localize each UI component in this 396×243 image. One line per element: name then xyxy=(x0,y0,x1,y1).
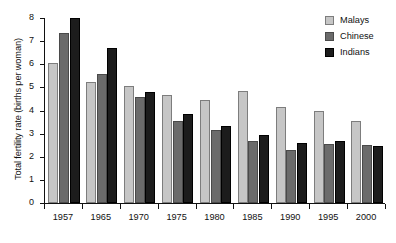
bar-chinese-1970 xyxy=(135,97,145,203)
x-tick-1995 xyxy=(347,204,348,209)
y-tick-label-1: 1 xyxy=(18,174,34,185)
y-tick-5: 5 xyxy=(40,87,44,88)
bar-indians-1965 xyxy=(107,48,117,203)
legend-swatch-malays-icon xyxy=(325,16,334,25)
y-tick-3: 3 xyxy=(40,134,44,135)
legend-label-chinese: Chinese xyxy=(340,31,374,41)
x-tick-1985 xyxy=(271,204,272,209)
bar-indians-2000 xyxy=(373,146,383,203)
y-tick-label-6: 6 xyxy=(18,58,34,69)
x-tick-origin xyxy=(44,204,45,209)
fertility-rate-bar-chart: Total fertility rate (births per woman) … xyxy=(0,0,396,243)
y-tick-label-2: 2 xyxy=(18,151,34,162)
bar-indians-1975 xyxy=(183,114,193,203)
legend-swatch-indians-icon xyxy=(325,48,334,57)
bar-malays-1957 xyxy=(48,63,58,203)
y-tick-6: 6 xyxy=(40,64,44,65)
y-tick-4: 4 xyxy=(40,111,44,112)
bar-indians-1995 xyxy=(335,141,345,203)
bar-chinese-1990 xyxy=(286,150,296,203)
bar-chinese-1965 xyxy=(97,74,107,204)
y-tick-label-5: 5 xyxy=(18,81,34,92)
x-axis-line xyxy=(44,203,385,204)
legend-item-malays: Malays xyxy=(325,12,395,28)
bar-malays-1965 xyxy=(86,82,96,203)
bar-chinese-1975 xyxy=(173,121,183,203)
x-tick-1990 xyxy=(309,204,310,209)
bar-indians-1957 xyxy=(70,18,80,203)
bar-indians-1970 xyxy=(145,92,155,203)
chart-legend: Malays Chinese Indians xyxy=(325,12,395,60)
bar-malays-1995 xyxy=(314,111,324,204)
bar-chinese-2000 xyxy=(362,145,372,203)
x-tick-1980 xyxy=(233,204,234,209)
y-tick-label-7: 7 xyxy=(18,35,34,46)
x-tick-1970 xyxy=(158,204,159,209)
bar-malays-2000 xyxy=(351,121,361,203)
legend-label-indians: Indians xyxy=(340,47,370,57)
y-tick-label-4: 4 xyxy=(18,105,34,116)
bar-malays-1980 xyxy=(200,100,210,203)
bar-indians-1990 xyxy=(297,143,307,203)
y-tick-8: 8 xyxy=(40,18,44,19)
bar-chinese-1985 xyxy=(248,141,258,203)
bar-malays-1975 xyxy=(162,95,172,203)
bar-indians-1980 xyxy=(221,126,231,203)
y-tick-1: 1 xyxy=(40,180,44,181)
bar-malays-1970 xyxy=(124,86,134,203)
legend-item-indians: Indians xyxy=(325,44,395,60)
legend-item-chinese: Chinese xyxy=(325,28,395,44)
legend-label-malays: Malays xyxy=(340,15,369,25)
y-tick-label-0: 0 xyxy=(18,197,34,208)
x-tick-1975 xyxy=(196,204,197,209)
bar-chinese-1957 xyxy=(59,33,69,203)
y-tick-7: 7 xyxy=(40,41,44,42)
x-tick-1965 xyxy=(120,204,121,209)
x-tick-1957 xyxy=(82,204,83,209)
x-tick-label-2000: 2000 xyxy=(336,212,396,222)
bar-malays-1990 xyxy=(276,107,286,203)
x-tick-2000 xyxy=(385,204,386,209)
y-tick-2: 2 xyxy=(40,157,44,158)
bar-chinese-1995 xyxy=(324,144,334,203)
legend-swatch-chinese-icon xyxy=(325,32,334,41)
bar-malays-1985 xyxy=(238,91,248,203)
y-tick-label-8: 8 xyxy=(18,12,34,23)
y-tick-label-3: 3 xyxy=(18,128,34,139)
bar-indians-1985 xyxy=(259,135,269,203)
bar-chinese-1980 xyxy=(211,130,221,203)
